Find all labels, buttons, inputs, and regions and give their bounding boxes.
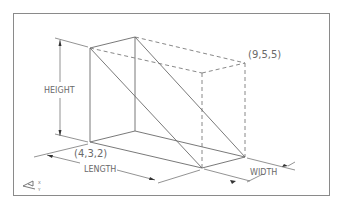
far-corner-label: (9,5,5)	[248, 49, 281, 60]
arrow-left-icon	[47, 155, 53, 158]
box-hidden-edges	[90, 37, 245, 168]
drawing-frame	[14, 14, 330, 196]
height-dimension: HEIGHT	[44, 38, 88, 142]
near-corner-label: (4,3,2)	[74, 148, 107, 159]
space-diagonals	[90, 37, 245, 168]
arrow-width-icon-2	[230, 180, 236, 184]
svg-text:Y: Y	[37, 187, 41, 192]
arrow-up-icon	[59, 40, 62, 46]
arrow-width-icon	[282, 164, 288, 167]
length-dimension: LENGTH	[34, 144, 200, 183]
width-label: WIDTH	[250, 168, 277, 177]
ucs-axis-icon: X Y	[23, 180, 41, 192]
arrow-right-icon	[149, 177, 155, 180]
width-dimension: WIDTH	[204, 158, 295, 184]
length-label: LENGTH	[84, 165, 116, 174]
svg-text:X: X	[38, 180, 41, 185]
box-solid-edges	[90, 37, 245, 168]
height-label: HEIGHT	[44, 86, 75, 95]
box-diagram: HEIGHT LENGTH WIDTH (4,3,2) (9,5,5) X Y	[0, 0, 345, 210]
